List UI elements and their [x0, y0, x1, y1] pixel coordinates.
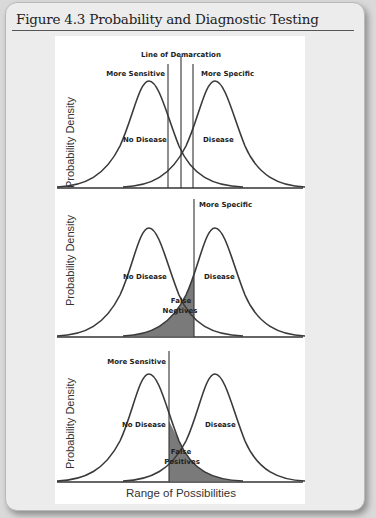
- no-disease-curve: [57, 228, 243, 336]
- no-disease-label: No Disease: [123, 273, 167, 281]
- y-axis-label: Probability Density: [64, 377, 76, 469]
- panel-1: Probability Density Line of Demarcation …: [57, 51, 305, 188]
- no-disease-curve: [57, 81, 243, 187]
- false-positives-label-2: Positives: [164, 458, 200, 466]
- figure-panel: Probability Density Line of Demarcation …: [55, 36, 305, 504]
- false-negatives-label-2: Negtives: [163, 307, 198, 315]
- more-specific-label: More Specific: [201, 70, 254, 78]
- more-sensitive-label: More Sensitive: [107, 358, 166, 366]
- disease-label: Disease: [204, 273, 235, 281]
- more-sensitive-label: More Sensitive: [106, 70, 165, 78]
- disease-label: Disease: [203, 136, 234, 144]
- figure-title: Figure 4.3 Probability and Diagnostic Te…: [16, 11, 319, 27]
- no-disease-label: No Disease: [122, 421, 166, 429]
- y-axis-label: Probability Density: [64, 214, 76, 306]
- panel-2: Probability Density More Specific No Dis…: [57, 199, 305, 337]
- title-underline: [12, 30, 354, 31]
- more-specific-label: More Specific: [199, 201, 252, 209]
- y-axis-label: Probability Density: [64, 96, 76, 188]
- disease-curve: [123, 81, 305, 187]
- false-positives-label-1: False: [171, 448, 192, 456]
- no-disease-label: No Disease: [123, 136, 167, 144]
- panel-3: Probability Density More Sensitive No Di…: [57, 351, 305, 499]
- x-axis-label: Range of Possibilities: [126, 487, 236, 499]
- disease-label: Disease: [205, 421, 236, 429]
- false-negatives-label-1: False: [171, 297, 192, 305]
- diagnostic-testing-diagram: Probability Density Line of Demarcation …: [55, 36, 305, 504]
- disease-curve: [123, 228, 305, 336]
